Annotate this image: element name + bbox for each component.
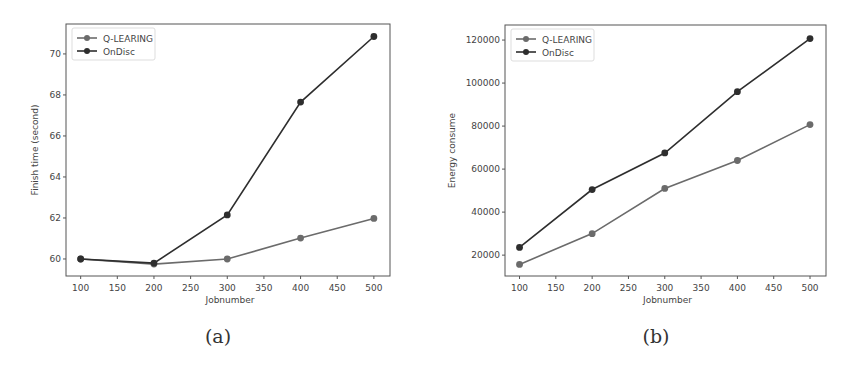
x-tick-label: 400 — [292, 283, 309, 293]
chart-energy-consume: 1001502002503003504004505002000040000600… — [447, 25, 826, 305]
chart-finish-time: 100150200250300350400450500606264666870J… — [30, 24, 390, 305]
y-axis-label: Finish time (second) — [30, 105, 40, 196]
chart-canvas: 100150200250300350400450500606264666870J… — [0, 0, 860, 371]
y-tick-label: 80000 — [471, 121, 500, 131]
data-point — [151, 260, 158, 267]
x-tick-label: 200 — [584, 283, 601, 293]
x-tick-label: 250 — [182, 283, 199, 293]
y-tick-label: 40000 — [471, 207, 500, 217]
legend-marker-icon — [84, 35, 90, 41]
x-axis-label: Jobnumber — [205, 295, 255, 305]
series-q-learing — [516, 121, 813, 268]
x-tick-label: 200 — [145, 283, 162, 293]
data-point — [807, 35, 814, 42]
data-point — [661, 185, 668, 192]
x-tick-label: 500 — [365, 283, 382, 293]
data-point — [297, 99, 304, 106]
legend-label: Q-LEARING — [103, 34, 153, 44]
legend-label: Q-LEARING — [542, 35, 592, 45]
data-point — [734, 157, 741, 164]
y-axis-label: Energy consume — [447, 112, 457, 188]
series-ondisc — [77, 33, 377, 266]
legend-marker-icon — [523, 49, 529, 55]
legend-marker-icon — [84, 48, 90, 54]
y-tick-label: 20000 — [471, 250, 500, 260]
x-tick-label: 350 — [692, 283, 709, 293]
y-tick-label: 62 — [50, 213, 61, 223]
caption-a: (a) — [205, 325, 231, 347]
data-point — [516, 244, 523, 251]
data-point — [224, 211, 231, 218]
y-tick-label: 68 — [50, 90, 62, 100]
series-q-learing — [77, 215, 377, 268]
x-tick-label: 100 — [72, 283, 89, 293]
plot-frame — [66, 24, 390, 276]
data-point — [661, 150, 668, 157]
legend-marker-icon — [523, 36, 529, 42]
x-tick-label: 450 — [329, 283, 346, 293]
y-tick-label: 64 — [50, 172, 62, 182]
y-tick-label: 120000 — [466, 35, 501, 45]
x-tick-label: 500 — [801, 283, 818, 293]
caption-b: (b) — [643, 325, 670, 347]
y-tick-label: 66 — [50, 131, 62, 141]
series-ondisc — [516, 35, 813, 251]
legend: Q-LEARINGOnDisc — [511, 29, 594, 61]
x-tick-label: 300 — [219, 283, 236, 293]
data-point — [297, 235, 304, 242]
legend: Q-LEARINGOnDisc — [72, 28, 155, 60]
data-point — [734, 88, 741, 95]
data-point — [370, 215, 377, 222]
x-tick-label: 350 — [255, 283, 272, 293]
x-tick-label: 450 — [765, 283, 782, 293]
legend-label: OnDisc — [542, 48, 574, 58]
figure: 100150200250300350400450500606264666870J… — [0, 0, 860, 371]
data-point — [589, 186, 596, 193]
data-point — [516, 261, 523, 268]
x-tick-label: 300 — [656, 283, 673, 293]
x-tick-label: 400 — [729, 283, 746, 293]
y-tick-label: 70 — [50, 49, 62, 59]
legend-label: OnDisc — [103, 47, 135, 57]
x-axis-label: Jobnumber — [642, 295, 692, 305]
data-point — [370, 33, 377, 40]
x-tick-label: 150 — [547, 283, 564, 293]
x-tick-label: 150 — [109, 283, 126, 293]
y-tick-label: 100000 — [466, 78, 501, 88]
data-point — [589, 230, 596, 237]
data-point — [807, 121, 814, 128]
y-tick-label: 60000 — [471, 164, 500, 174]
x-tick-label: 100 — [511, 283, 528, 293]
data-point — [77, 256, 84, 263]
data-point — [224, 256, 231, 263]
x-tick-label: 250 — [620, 283, 637, 293]
y-tick-label: 60 — [50, 254, 62, 264]
